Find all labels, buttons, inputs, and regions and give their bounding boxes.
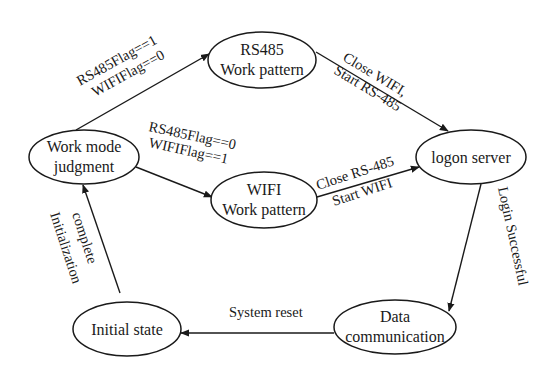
arrow-line <box>449 184 481 311</box>
edge-initial-to-judgment: Initialization complete <box>47 185 120 293</box>
edge-label: Login Successful <box>495 185 532 286</box>
node-rs485-work-pattern: RS485 Work pattern <box>208 32 316 88</box>
edge-data-to-initial: System reset <box>181 304 334 333</box>
node-label: RS485 <box>240 41 284 58</box>
node-logon-server: logon server <box>416 130 526 184</box>
node-label: Data <box>380 308 410 325</box>
node-label: communication <box>345 328 445 345</box>
node-label: logon server <box>431 149 511 167</box>
node-label: WIFI <box>247 181 282 198</box>
edge-wifi-to-logon: Close RS-485 Start WIFI <box>314 153 419 209</box>
node-wifi-work-pattern: WIFI Work pattern <box>211 172 317 228</box>
edge-logon-to-data: Login Successful <box>449 184 532 311</box>
node-work-mode-judgment: Work mode judgment <box>29 130 139 184</box>
node-label: Work mode <box>47 138 122 155</box>
edge-label: System reset <box>229 304 303 320</box>
edge-judgment-to-rs485: RS485Flag==1 WIFIFlag==0 <box>74 32 209 130</box>
state-diagram: RS485Flag==1 WIFIFlag==0 RS485Flag==0 WI… <box>0 0 546 376</box>
node-label: judgment <box>53 158 115 176</box>
node-label: Initial state <box>91 321 163 338</box>
node-data-communication: Data communication <box>334 300 456 354</box>
node-initial-state: Initial state <box>73 302 181 356</box>
edge-rs485-to-logon: Close WIFI, Start RS-485 <box>316 49 448 131</box>
node-label: Work pattern <box>222 201 306 219</box>
node-label: Work pattern <box>220 61 304 79</box>
arrow-line <box>136 167 212 197</box>
